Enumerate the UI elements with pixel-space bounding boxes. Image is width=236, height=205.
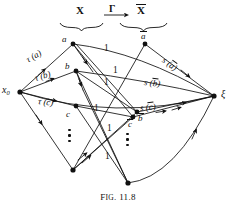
graph-canvas (0, 0, 236, 205)
arrowhead-curve-sink (156, 111, 165, 113)
node-label-c-bar: c (128, 120, 132, 129)
edge-c-to-bottom-right (76, 106, 128, 183)
node-label-c: c (66, 110, 70, 119)
node-dot-b (74, 69, 79, 74)
capacity-label-4: 1 (94, 104, 99, 114)
edge-label-s-b-bar: s (b) (144, 78, 161, 89)
source-node-subscript: 0 (6, 89, 9, 96)
arrowhead-c-bar-sink (172, 108, 180, 111)
source-node-label: x0 (2, 85, 10, 97)
node-label-b: b (65, 62, 70, 71)
node-dot-a (71, 42, 76, 47)
brace-group (60, 15, 167, 31)
underbrace-left (60, 23, 103, 31)
capacity-label-5: 1 (107, 124, 112, 134)
caption-ig: IG (106, 193, 115, 202)
capacity-label-1: 1 (104, 44, 109, 54)
mapping-label: Γ (109, 4, 115, 14)
node-label-b-bar: b (138, 114, 143, 123)
target-set-label: X (137, 5, 145, 16)
source-set-label: X (76, 5, 84, 16)
node-label-a-bar: a (141, 32, 146, 41)
left-vertical-ellipsis-icon (68, 129, 71, 145)
capacity-label-3: 1 (104, 78, 109, 88)
node-dot-a-bar (143, 42, 148, 47)
target-set-text: X (137, 5, 145, 16)
capacity-label-6: 1 (105, 152, 110, 162)
caption-number: . 11.8 (114, 192, 136, 202)
node-dot-source (17, 89, 22, 94)
node-dot-sink (211, 93, 216, 98)
edge-mid-to-bottom-right (83, 90, 128, 183)
right-vertical-ellipsis-icon (126, 133, 129, 149)
node-dot-c (74, 104, 79, 109)
sink-node-label: ξ (221, 89, 225, 99)
edge-label-s-c-bar: s (c) (140, 102, 157, 113)
capacity-label-2: 1 (113, 66, 118, 76)
figure-11-8: X Γ X x0 ξ a b c a b c τ (a) τ (b) τ (c)… (0, 0, 236, 205)
node-dot-bottom-right (125, 180, 130, 185)
edge-label-tau-c: τ (c) (37, 97, 53, 108)
figure-caption: FIG. 11.8 (0, 192, 236, 202)
edge-bottomleft-to-c-bar (73, 117, 133, 170)
arrowhead-source-bottom (36, 115, 42, 124)
arrowhead-a-bar-sink (181, 70, 189, 77)
node-label-a: a (62, 35, 67, 44)
arrowhead-bundle-2 (82, 156, 90, 163)
node-dot-bottom-left (70, 167, 75, 172)
